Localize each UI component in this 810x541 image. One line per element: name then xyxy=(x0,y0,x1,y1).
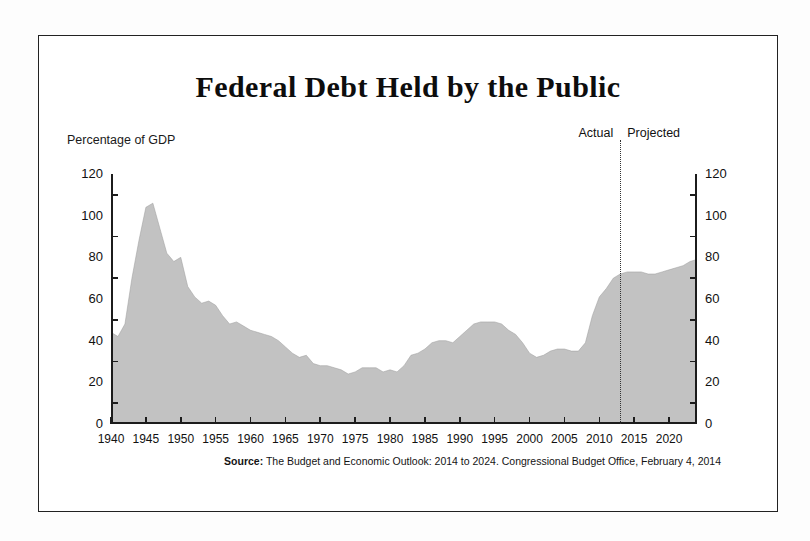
y-tick-right-50 xyxy=(690,319,697,321)
y-label-left-20: 20 xyxy=(89,375,103,388)
y-tick-right-70 xyxy=(690,277,697,279)
x-label-1975: 1975 xyxy=(342,432,369,446)
x-label-1960: 1960 xyxy=(237,432,264,446)
x-tick-1965 xyxy=(285,417,287,424)
area-series-plot xyxy=(111,174,697,424)
y-tick-right-30 xyxy=(690,361,697,363)
y-axis-left-spine xyxy=(111,174,113,424)
y-label-left-0: 0 xyxy=(96,417,103,430)
plot-container: 020406080100120 020406080100120 19401945… xyxy=(111,174,697,424)
x-label-2015: 2015 xyxy=(621,432,648,446)
projected-label: Projected xyxy=(620,126,680,140)
x-label-2000: 2000 xyxy=(516,432,543,446)
x-tick-1940 xyxy=(110,417,112,424)
y-tick-right-90 xyxy=(690,236,697,238)
x-tick-1950 xyxy=(180,417,182,424)
chart-frame: Federal Debt Held by the Public Percenta… xyxy=(38,35,778,512)
source-text: The Budget and Economic Outlook: 2014 to… xyxy=(266,455,721,467)
actual-label: Actual xyxy=(579,126,621,140)
x-tick-2010 xyxy=(599,417,601,424)
x-tick-1985 xyxy=(424,417,426,424)
x-label-1980: 1980 xyxy=(377,432,404,446)
y-tick-left-90 xyxy=(111,236,118,238)
x-tick-1990 xyxy=(459,417,461,424)
x-label-1945: 1945 xyxy=(133,432,160,446)
x-axis-spine xyxy=(111,422,697,424)
x-label-1990: 1990 xyxy=(446,432,473,446)
x-tick-1995 xyxy=(494,417,496,424)
x-tick-1970 xyxy=(319,417,321,424)
y-tick-left-110 xyxy=(111,194,118,196)
debt-area-series xyxy=(111,174,697,424)
y-label-left-60: 60 xyxy=(89,292,103,305)
x-label-2020: 2020 xyxy=(656,432,683,446)
x-label-1970: 1970 xyxy=(307,432,334,446)
y-tick-left-10 xyxy=(111,402,118,404)
y-label-left-100: 100 xyxy=(81,209,103,222)
x-label-1940: 1940 xyxy=(98,432,125,446)
source-lead: Source: xyxy=(224,455,263,467)
y-label-right-120: 120 xyxy=(705,167,727,180)
x-label-1955: 1955 xyxy=(202,432,229,446)
y-label-right-80: 80 xyxy=(705,250,719,263)
x-tick-2000 xyxy=(529,417,531,424)
x-label-1950: 1950 xyxy=(167,432,194,446)
y-tick-right-110 xyxy=(690,194,697,196)
y-axis-right-spine xyxy=(695,174,697,424)
x-tick-1980 xyxy=(389,417,391,424)
x-tick-1955 xyxy=(215,417,217,424)
x-tick-1960 xyxy=(250,417,252,424)
y-label-right-40: 40 xyxy=(705,334,719,347)
y-label-left-120: 120 xyxy=(81,167,103,180)
x-label-2005: 2005 xyxy=(551,432,578,446)
x-label-1965: 1965 xyxy=(272,432,299,446)
page-title: Federal Debt Held by the Public xyxy=(39,70,777,104)
y-tick-right-10 xyxy=(690,402,697,404)
y-label-right-100: 100 xyxy=(705,209,727,222)
chart-page: Federal Debt Held by the Public Percenta… xyxy=(0,0,810,541)
y-label-right-0: 0 xyxy=(705,417,712,430)
x-tick-2005 xyxy=(564,417,566,424)
y-label-right-20: 20 xyxy=(705,375,719,388)
y-label-left-40: 40 xyxy=(89,334,103,347)
y-tick-left-30 xyxy=(111,361,118,363)
y-label-left-80: 80 xyxy=(89,250,103,263)
x-tick-1945 xyxy=(145,417,147,424)
x-label-1985: 1985 xyxy=(412,432,439,446)
y-tick-left-70 xyxy=(111,277,118,279)
actual-projected-divider xyxy=(620,140,621,424)
y-label-right-60: 60 xyxy=(705,292,719,305)
x-tick-2015 xyxy=(633,417,635,424)
x-label-2010: 2010 xyxy=(586,432,613,446)
x-tick-2020 xyxy=(668,417,670,424)
x-label-1995: 1995 xyxy=(481,432,508,446)
x-tick-1975 xyxy=(354,417,356,424)
source-note: Source: The Budget and Economic Outlook:… xyxy=(99,455,721,467)
y-tick-left-50 xyxy=(111,319,118,321)
y-axis-caption: Percentage of GDP xyxy=(67,133,175,147)
